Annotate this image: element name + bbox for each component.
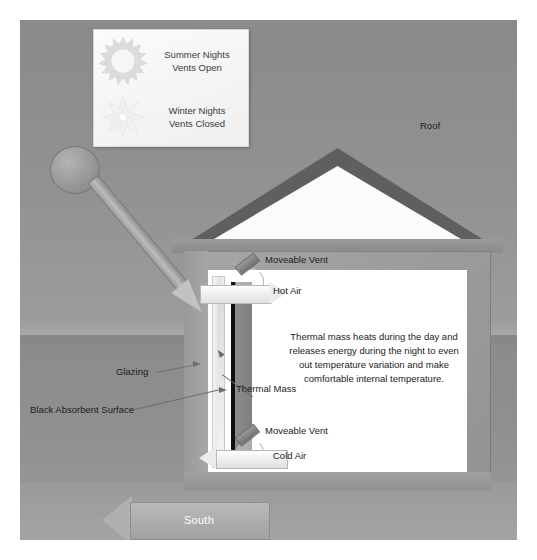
upflow-arrow-shaft xyxy=(217,302,224,454)
sun-icon xyxy=(94,34,152,88)
air-cavity-upflow-arrow xyxy=(216,288,225,454)
glazing-leader-head xyxy=(193,361,201,367)
moveable-vent-top-label: Moveable Vent xyxy=(265,254,328,265)
legend-winter-text: Winter Nights Vents Closed xyxy=(152,104,248,130)
legend-row-summer: Summer Nights Vents Open xyxy=(94,34,248,88)
illustration-canvas: South Roof Moveable Vent Hot Air Moveabl… xyxy=(20,20,517,540)
black-absorbent-surface-label: Black Absorbent Surface xyxy=(30,404,134,415)
roof-shape xyxy=(172,148,503,252)
south-arrow-tip xyxy=(102,496,132,540)
diagram-root: South Roof Moveable Vent Hot Air Moveabl… xyxy=(0,0,537,560)
absorber-leader-head xyxy=(219,387,227,393)
roof-label: Roof xyxy=(420,120,440,131)
hot-air-arrow-body xyxy=(200,285,272,304)
glazing-label: Glazing xyxy=(116,366,148,377)
legend-winter-line1: Winter Nights xyxy=(152,104,242,117)
legend-summer-line1: Summer Nights xyxy=(152,48,242,61)
cold-air-arrow-tip xyxy=(199,447,216,469)
south-direction-arrow: South xyxy=(102,502,268,538)
legend-winter-line2: Vents Closed xyxy=(152,117,242,130)
moveable-vent-bottom-label: Moveable Vent xyxy=(265,425,328,436)
legend-panel: Summer Nights Vents Open xyxy=(93,29,249,147)
thermal-mass-paragraph: Thermal mass heats during the day and re… xyxy=(288,330,460,386)
snowflake-icon xyxy=(94,90,152,144)
legend-row-winter: Winter Nights Vents Closed xyxy=(94,90,248,144)
cold-air-label: Cold Air xyxy=(273,450,306,461)
hot-air-label: Hot Air xyxy=(273,285,302,296)
legend-summer-line2: Vents Open xyxy=(152,61,242,74)
legend-summer-text: Summer Nights Vents Open xyxy=(152,48,248,74)
floor-slab xyxy=(184,472,491,491)
south-label: South xyxy=(130,502,268,538)
